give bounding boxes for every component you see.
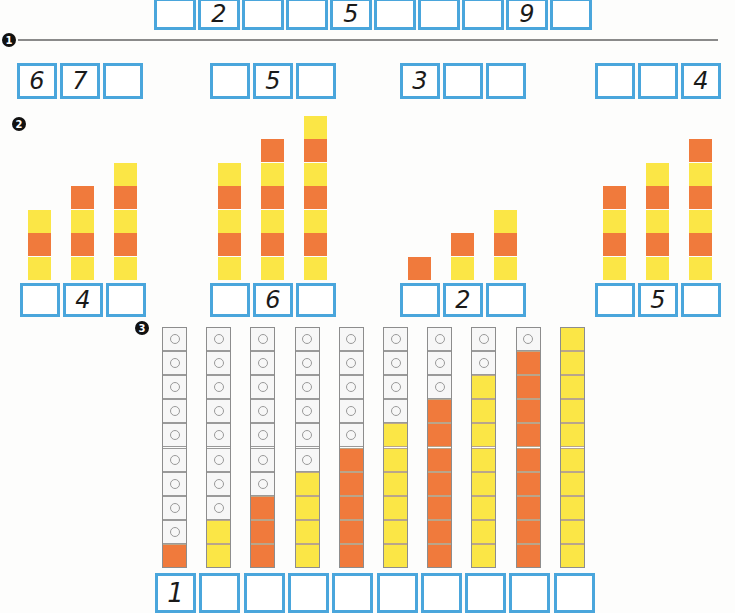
- answer-box[interactable]: [400, 283, 440, 317]
- answer-box[interactable]: [486, 63, 526, 99]
- orange-cube: [689, 186, 712, 209]
- yellow-cube: [304, 116, 327, 139]
- orange-cube: [261, 233, 284, 256]
- answer-box[interactable]: [154, 0, 196, 30]
- answer-box[interactable]: [210, 63, 250, 99]
- orange-cube: [114, 233, 137, 256]
- answer-box[interactable]: [462, 0, 504, 30]
- orange-cube: [114, 186, 137, 209]
- answer-box[interactable]: [286, 0, 328, 30]
- orange-cube: [261, 186, 284, 209]
- orange-cube: [71, 233, 94, 256]
- answer-box[interactable]: [486, 283, 526, 317]
- answer-box[interactable]: [554, 573, 595, 613]
- answer-box[interactable]: 7: [60, 63, 100, 99]
- answer-box[interactable]: [418, 0, 460, 30]
- yellow-cube: [218, 210, 241, 233]
- answer-box[interactable]: [509, 573, 550, 613]
- cube-column: [383, 327, 408, 568]
- yellow-cube: [114, 257, 137, 280]
- answer-box[interactable]: 5: [330, 0, 372, 30]
- answer-box[interactable]: 6: [253, 283, 293, 317]
- yellow-cube: [71, 257, 94, 280]
- yellow-cube: [603, 210, 626, 233]
- cube-column: [471, 327, 496, 568]
- answer-box[interactable]: [199, 573, 240, 613]
- yellow-cube: [646, 163, 669, 186]
- answer-box[interactable]: 2: [198, 0, 240, 30]
- orange-cube: [218, 186, 241, 209]
- cube-column: [339, 327, 364, 568]
- yellow-cube: [114, 210, 137, 233]
- answer-box[interactable]: [421, 573, 462, 613]
- answer-box[interactable]: 5: [253, 63, 293, 99]
- cube-column: [162, 327, 187, 568]
- cube-column: [516, 327, 541, 568]
- orange-cube: [689, 139, 712, 162]
- cube-column: [560, 327, 585, 568]
- answer-box[interactable]: [242, 0, 284, 30]
- yellow-cube: [28, 257, 51, 280]
- yellow-cube: [261, 210, 284, 233]
- answer-box[interactable]: [638, 63, 678, 99]
- orange-cube: [451, 233, 474, 256]
- yellow-cube: [304, 210, 327, 233]
- answer-box[interactable]: 9: [506, 0, 548, 30]
- yellow-cube: [114, 163, 137, 186]
- section-2-badge: 2: [12, 117, 26, 131]
- section-1-badge: 1: [2, 33, 16, 47]
- answer-box[interactable]: [296, 63, 336, 99]
- yellow-cube: [451, 257, 474, 280]
- yellow-cube: [646, 257, 669, 280]
- orange-cube: [646, 186, 669, 209]
- answer-box[interactable]: 1: [155, 573, 196, 613]
- answer-box[interactable]: [550, 0, 592, 30]
- orange-cube: [304, 186, 327, 209]
- yellow-cube: [689, 257, 712, 280]
- orange-cube: [71, 186, 94, 209]
- answer-box[interactable]: [681, 283, 721, 317]
- answer-box[interactable]: 6: [17, 63, 57, 99]
- answer-box[interactable]: 3: [400, 63, 440, 99]
- answer-box[interactable]: [332, 573, 373, 613]
- orange-cube: [646, 233, 669, 256]
- cube-column: [250, 327, 275, 568]
- orange-cube: [261, 139, 284, 162]
- yellow-cube: [646, 210, 669, 233]
- yellow-cube: [28, 210, 51, 233]
- answer-box[interactable]: [296, 283, 336, 317]
- yellow-cube: [218, 163, 241, 186]
- answer-box[interactable]: 4: [681, 63, 721, 99]
- answer-box[interactable]: [595, 283, 635, 317]
- answer-box[interactable]: [374, 0, 416, 30]
- section-divider: [18, 39, 718, 41]
- orange-cube: [603, 233, 626, 256]
- answer-box[interactable]: 5: [638, 283, 678, 317]
- answer-box[interactable]: [244, 573, 285, 613]
- orange-cube: [408, 257, 431, 280]
- answer-box[interactable]: 2: [443, 283, 483, 317]
- yellow-cube: [304, 257, 327, 280]
- section-3-badge: 3: [135, 321, 149, 335]
- answer-box[interactable]: [106, 283, 146, 317]
- orange-cube: [603, 186, 626, 209]
- cube-column: [206, 327, 231, 568]
- answer-box[interactable]: [20, 283, 60, 317]
- answer-box[interactable]: [288, 573, 329, 613]
- yellow-cube: [494, 210, 517, 233]
- answer-box[interactable]: [595, 63, 635, 99]
- yellow-cube: [261, 257, 284, 280]
- answer-box[interactable]: [377, 573, 418, 613]
- yellow-cube: [261, 163, 284, 186]
- answer-box[interactable]: 4: [63, 283, 103, 317]
- answer-box[interactable]: [103, 63, 143, 99]
- yellow-cube: [689, 210, 712, 233]
- answer-box[interactable]: [210, 283, 250, 317]
- cube-column: [295, 327, 320, 568]
- yellow-cube: [71, 210, 94, 233]
- orange-cube: [304, 233, 327, 256]
- answer-box[interactable]: [443, 63, 483, 99]
- yellow-cube: [689, 163, 712, 186]
- cube-column: [427, 327, 452, 568]
- answer-box[interactable]: [465, 573, 506, 613]
